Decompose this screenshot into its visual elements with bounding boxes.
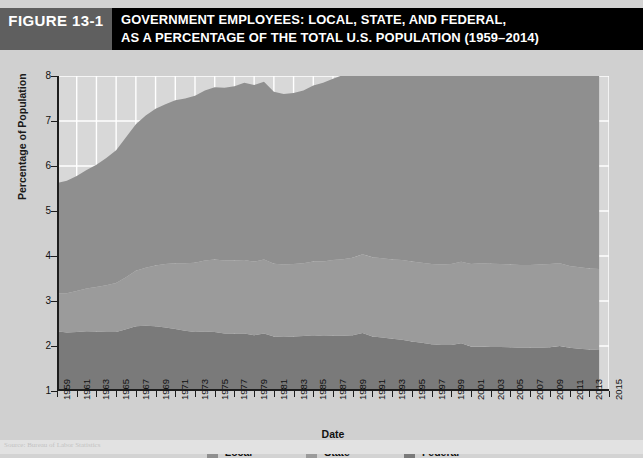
x-tick — [116, 391, 117, 397]
plot-area — [57, 76, 609, 391]
x-tick — [570, 391, 571, 397]
x-tick-label: 2015 — [613, 379, 624, 400]
y-tick — [51, 166, 57, 167]
x-tick-label: 2007 — [534, 379, 545, 400]
x-tick — [471, 391, 472, 397]
y-tick-label: 2 — [33, 341, 51, 351]
x-tick — [215, 391, 216, 397]
x-tick — [234, 391, 235, 397]
x-tick — [392, 391, 393, 397]
plot-wrapper: 12345678 1959196119631965196719691971197… — [57, 76, 609, 391]
figure-body: Percentage of Population 12345678 195919… — [0, 50, 643, 440]
x-tick — [353, 391, 354, 397]
x-tick-label: 1979 — [258, 379, 269, 400]
x-tick-label: 1969 — [160, 379, 171, 400]
x-tick-label: 1977 — [238, 379, 249, 400]
x-tick-label: 2001 — [475, 379, 486, 400]
x-tick-label: 1973 — [199, 379, 210, 400]
x-axis-title: Date — [57, 428, 609, 440]
x-tick-label: 2003 — [495, 379, 506, 400]
y-tick-label: 1 — [33, 386, 51, 396]
y-axis-title: Percentage of Population — [16, 73, 28, 200]
x-tick-label: 1967 — [140, 379, 151, 400]
x-tick-label: 1971 — [179, 379, 190, 400]
source-caption: Source: Bureau of Labor Statistics — [4, 441, 100, 449]
y-tick — [51, 301, 57, 302]
x-tick — [550, 391, 551, 397]
x-tick-label: 1959 — [61, 379, 72, 400]
x-tick — [510, 391, 511, 397]
x-tick — [175, 391, 176, 397]
x-tick — [451, 391, 452, 397]
x-tick — [412, 391, 413, 397]
x-tick — [609, 391, 610, 397]
x-tick-label: 1997 — [436, 379, 447, 400]
y-tick-label: 5 — [33, 206, 51, 216]
x-tick-label: 1989 — [357, 379, 368, 400]
y-tick — [51, 346, 57, 347]
x-tick — [372, 391, 373, 397]
x-tick — [491, 391, 492, 397]
x-tick — [530, 391, 531, 397]
y-tick — [51, 76, 57, 77]
x-tick-label: 1963 — [100, 379, 111, 400]
x-tick-label: 1987 — [337, 379, 348, 400]
x-tick — [589, 391, 590, 397]
x-tick — [195, 391, 196, 397]
x-tick-label: 2009 — [554, 379, 565, 400]
x-tick — [77, 391, 78, 397]
x-tick-label: 2011 — [574, 380, 585, 400]
x-tick — [96, 391, 97, 397]
x-tick — [156, 391, 157, 397]
y-tick-label: 4 — [33, 251, 51, 261]
figure-title-line-2: AS A PERCENTAGE OF THE TOTAL U.S. POPULA… — [121, 29, 613, 47]
x-tick-label: 1993 — [396, 379, 407, 400]
x-tick-label: 1983 — [298, 379, 309, 400]
x-tick — [254, 391, 255, 397]
y-tick-label: 3 — [33, 296, 51, 306]
figure-title-line-1: GOVERNMENT EMPLOYEES: LOCAL, STATE, AND … — [121, 11, 613, 29]
y-tick-label: 8 — [33, 71, 51, 81]
x-tick — [57, 391, 58, 397]
x-tick-label: 2005 — [514, 379, 525, 400]
x-tick-label: 1999 — [455, 379, 466, 400]
y-tick — [51, 211, 57, 212]
y-tick — [51, 121, 57, 122]
x-tick-label: 1975 — [219, 379, 230, 400]
stacked-area-chart — [57, 76, 609, 391]
x-tick-label: 1965 — [120, 379, 131, 400]
x-tick — [294, 391, 295, 397]
x-tick — [432, 391, 433, 397]
x-tick — [136, 391, 137, 397]
x-tick — [333, 391, 334, 397]
x-tick — [313, 391, 314, 397]
y-tick-label: 6 — [33, 161, 51, 171]
figure-header: FIGURE 13-1 GOVERNMENT EMPLOYEES: LOCAL,… — [0, 8, 643, 50]
area-series-group — [57, 76, 599, 391]
x-tick — [274, 391, 275, 397]
figure-title-band: GOVERNMENT EMPLOYEES: LOCAL, STATE, AND … — [112, 8, 643, 50]
x-tick-label: 1991 — [376, 379, 387, 400]
y-tick — [51, 256, 57, 257]
y-axis-line — [57, 76, 59, 391]
x-tick-label: 1961 — [81, 379, 92, 400]
x-tick-label: 1981 — [278, 379, 289, 400]
figure-number-tag: FIGURE 13-1 — [0, 8, 112, 50]
x-tick-label: 1995 — [416, 379, 427, 400]
y-tick-label: 7 — [33, 116, 51, 126]
x-tick-label: 2013 — [593, 379, 604, 400]
x-tick-label: 1985 — [317, 379, 328, 400]
